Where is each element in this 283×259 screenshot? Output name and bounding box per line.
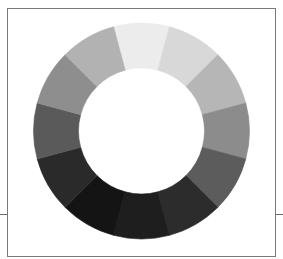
grayscale-donut-wheel xyxy=(0,0,283,259)
